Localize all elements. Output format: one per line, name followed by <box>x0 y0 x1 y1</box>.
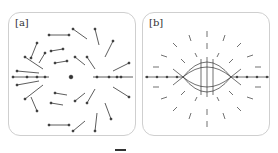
caption-overline-fragment <box>115 149 126 151</box>
panel-b: [b] <box>142 12 270 136</box>
panel-b-vector-field <box>143 13 271 137</box>
panel-a-vector-field <box>9 13 137 137</box>
panel-a: [a] <box>8 12 136 136</box>
